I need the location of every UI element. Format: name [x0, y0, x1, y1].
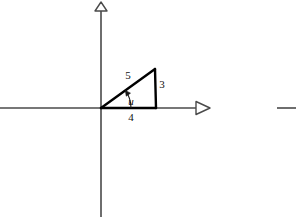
figure-canvas: 5 3 4 u	[0, 0, 296, 217]
triangle-vertical-leg	[155, 69, 156, 108]
vertical-leg-label: 3	[159, 78, 165, 90]
x-axis-arrow-icon	[196, 102, 210, 115]
base-leg-label: 4	[128, 111, 134, 123]
axes-group	[0, 2, 210, 217]
angle-label: u	[128, 95, 134, 107]
y-axis-arrow-icon	[95, 2, 107, 11]
triangle-diagram-svg: 5 3 4 u	[0, 0, 296, 217]
hypotenuse-label: 5	[125, 69, 131, 81]
